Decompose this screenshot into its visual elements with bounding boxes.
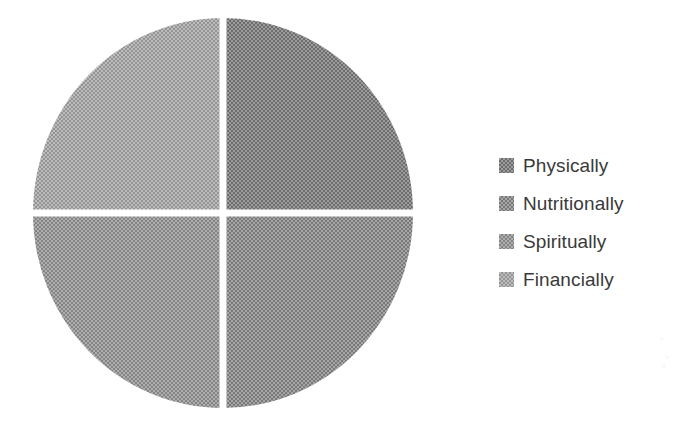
swatch-square-icon <box>499 158 514 173</box>
legend-item-label: Nutritionally <box>523 194 624 213</box>
legend-item-nutritionally[interactable]: Nutritionally <box>499 184 679 222</box>
legend-item-label: Spiritually <box>523 232 606 251</box>
chart-legend: Physically Nutritionally Spiritually <box>499 146 679 298</box>
swatch-square-icon <box>499 272 514 287</box>
pie-svg <box>33 18 413 408</box>
pie-slice-physically[interactable] <box>223 18 413 213</box>
legend-swatch-icon <box>499 272 514 287</box>
legend-swatch-icon <box>499 234 514 249</box>
legend-item-label: Physically <box>523 156 608 175</box>
legend-item-label: Financially <box>523 270 614 289</box>
pie-slice-spiritually[interactable] <box>33 213 223 408</box>
pie-slice-nutritionally[interactable] <box>223 213 413 408</box>
legend-item-spiritually[interactable]: Spiritually <box>499 222 679 260</box>
swatch-square-icon <box>499 234 514 249</box>
scan-artifact-speckle <box>655 330 677 380</box>
pie-chart-figure: Physically Nutritionally Spiritually <box>0 0 689 435</box>
legend-item-physically[interactable]: Physically <box>499 146 679 184</box>
legend-item-financially[interactable]: Financially <box>499 260 679 298</box>
legend-swatch-icon <box>499 158 514 173</box>
legend-swatch-icon <box>499 196 514 211</box>
pie-plot-area <box>33 18 413 408</box>
pie-slice-financially[interactable] <box>33 18 223 213</box>
swatch-square-icon <box>499 196 514 211</box>
